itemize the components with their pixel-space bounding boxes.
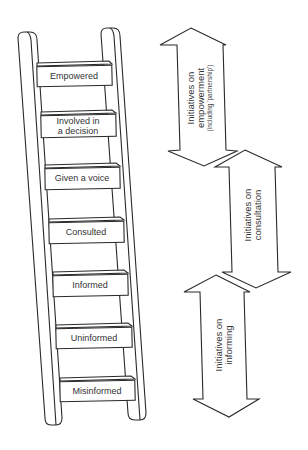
rung-uninformed: Uninformed bbox=[56, 323, 132, 349]
rung-informed: Informed bbox=[53, 270, 128, 297]
arrow-label-informing-2: informing bbox=[223, 325, 234, 364]
rung-empowered: Empowered bbox=[37, 61, 112, 87]
rung-label-involved-1: Involved in bbox=[56, 116, 99, 126]
arrow-empowerment: Initiatives on empowerment (including 'p… bbox=[160, 28, 237, 166]
rung-label-consulted: Consulted bbox=[66, 227, 107, 237]
arrow-label-consultation-2: consultation bbox=[252, 190, 263, 241]
rung-given-a-voice: Given a voice bbox=[45, 163, 120, 190]
arrow-label-empowerment-2: empowerment bbox=[195, 68, 206, 129]
rung-label-misinformed: Misinformed bbox=[72, 386, 121, 396]
arrow-informing: Initiatives on informing bbox=[184, 275, 259, 417]
ladder-diagram: Empowered Involved in a decision Given a… bbox=[0, 0, 308, 450]
rung-label-informed: Informed bbox=[72, 280, 108, 290]
rung-involved: Involved in a decision bbox=[41, 110, 116, 138]
rung-consulted: Consulted bbox=[49, 217, 124, 244]
arrow-sublabel-empowerment: (including 'partnership') bbox=[206, 65, 214, 132]
rung-label-empowered: Empowered bbox=[50, 71, 98, 81]
rung-label-given-a-voice: Given a voice bbox=[55, 173, 110, 183]
rung-label-involved-2: a decision bbox=[58, 126, 99, 136]
arrow-consultation: Initiatives on consultation bbox=[215, 150, 291, 288]
rung-misinformed: Misinformed bbox=[60, 376, 135, 402]
rung-label-uninformed: Uninformed bbox=[71, 333, 118, 343]
